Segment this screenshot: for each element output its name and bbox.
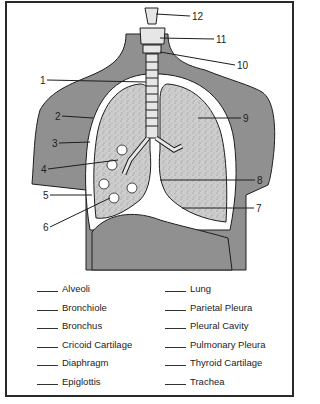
answer-blank[interactable]: [165, 358, 186, 366]
label-5: 5: [43, 191, 49, 201]
label-7: 7: [256, 204, 262, 214]
word-bank-item: Diaphragm: [37, 357, 108, 368]
word-bank-item: Lung: [165, 283, 211, 294]
label-11: 11: [216, 35, 226, 45]
word-bank-item: Epiglottis: [37, 376, 101, 387]
thyroid-cartilage: [140, 28, 165, 44]
answer-blank[interactable]: [37, 321, 58, 329]
label-10: 10: [237, 61, 248, 71]
word-bank-item: Thyroid Cartilage: [165, 357, 262, 368]
word-bank-item: Bronchus: [37, 320, 102, 331]
word-bank-item: Pulmonary Pleura: [165, 339, 266, 350]
answer-blank[interactable]: [165, 377, 186, 385]
answer-blank[interactable]: [165, 340, 186, 348]
label-3: 3: [52, 139, 58, 149]
word-bank-item: Cricoid Cartilage: [37, 339, 132, 350]
label-4: 4: [41, 165, 47, 175]
label-12: 12: [192, 12, 203, 22]
label-1: 1: [40, 76, 46, 86]
answer-blank[interactable]: [37, 377, 58, 385]
cricoid-cartilage: [143, 45, 161, 53]
word-bank-item: Pleural Cavity: [165, 320, 249, 331]
epiglottis: [145, 8, 158, 24]
answer-blank[interactable]: [37, 340, 58, 348]
answer-blank[interactable]: [165, 284, 186, 292]
answer-blank[interactable]: [37, 284, 58, 292]
word-bank-item: Parietal Pleura: [165, 302, 252, 313]
label-9: 9: [243, 114, 249, 124]
label-2: 2: [55, 112, 61, 122]
word-bank-item: Bronchiole: [37, 302, 107, 313]
answer-blank[interactable]: [165, 321, 186, 329]
word-bank-item: Trachea: [165, 376, 225, 387]
answer-blank[interactable]: [37, 358, 58, 366]
label-6: 6: [43, 223, 49, 233]
answer-blank[interactable]: [165, 303, 186, 311]
label-8: 8: [257, 176, 263, 186]
trachea: [146, 54, 158, 138]
word-bank-item: Alveoli: [37, 283, 90, 294]
answer-blank[interactable]: [37, 303, 58, 311]
